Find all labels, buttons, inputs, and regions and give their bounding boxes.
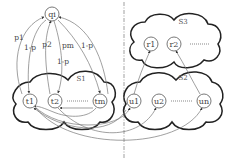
edge-t2-to-qi — [46, 21, 51, 94]
cloud-label-s1: S1 — [76, 75, 85, 83]
edge-label-p2: p2 — [42, 40, 52, 49]
node-label-tm: tm — [95, 97, 106, 106]
node-t1[interactable]: t1 — [23, 94, 37, 108]
node-label-u2: u2 — [154, 97, 164, 106]
node-label-qi: qi — [48, 10, 56, 19]
edge-label-1-p-t1: 1-p — [24, 43, 36, 52]
edge-label-1-p-t2: 1-p — [57, 57, 69, 66]
node-tm[interactable]: tm — [93, 94, 107, 108]
node-label-t1: t1 — [26, 97, 34, 106]
node-label-u1: u1 — [129, 97, 139, 106]
node-label-r1: r1 — [147, 40, 156, 49]
cloud-label-s3: S3 — [178, 18, 187, 26]
edge-label-1-p-tm: 1-p — [81, 41, 93, 50]
edge-label-pm: pm — [62, 41, 74, 50]
node-t2[interactable]: t2 — [48, 94, 62, 108]
node-label-t2: t2 — [51, 97, 59, 106]
edge-label-p1: p1 — [14, 33, 24, 42]
edge-tm-to-un — [36, 108, 202, 140]
edge-qi-to-t1 — [28, 20, 46, 93]
node-u2[interactable]: u2 — [152, 94, 166, 108]
node-qi[interactable]: qi — [45, 7, 59, 21]
node-un[interactable]: un — [197, 94, 211, 108]
node-u1[interactable]: u1 — [127, 94, 141, 108]
edge-u1-to-r1 — [134, 51, 150, 94]
node-r2[interactable]: r2 — [167, 37, 181, 51]
node-r1[interactable]: r1 — [144, 37, 158, 51]
diagram-canvas: S1 S2 S3 qi t1 t2 tm u1 — [0, 0, 230, 158]
cloud-label-s2: S2 — [178, 74, 187, 82]
node-label-un: un — [199, 97, 209, 106]
node-label-r2: r2 — [170, 40, 179, 49]
